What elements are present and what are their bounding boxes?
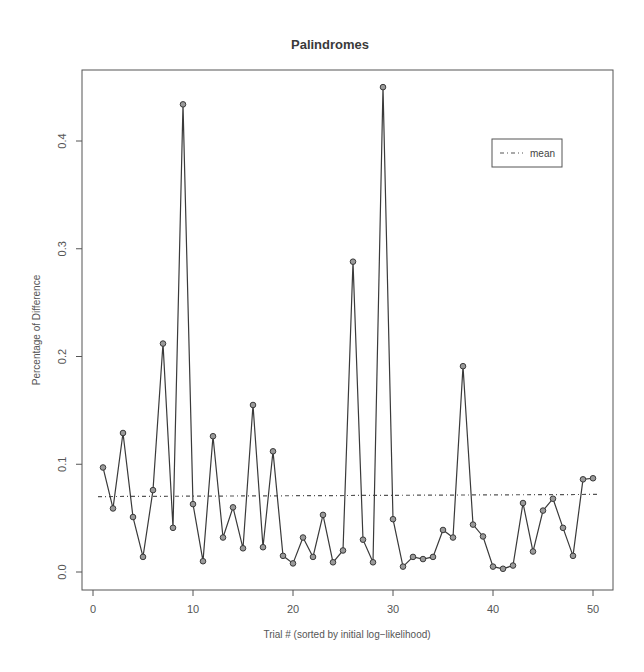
legend-mean-label: mean (530, 148, 555, 159)
data-point (260, 544, 266, 550)
data-point (460, 363, 466, 369)
data-point (320, 512, 326, 518)
data-point (450, 535, 456, 541)
data-point (210, 433, 216, 439)
data-point (500, 566, 506, 572)
data-point (280, 553, 286, 559)
data-point (510, 563, 516, 569)
x-tick-label: 10 (187, 603, 199, 615)
x-tick-label: 0 (90, 603, 96, 615)
data-point (430, 554, 436, 560)
chart: Palindromes 0.00.10.20.30.4 01020304050 … (0, 0, 644, 672)
legend: mean (492, 139, 562, 167)
data-point (350, 259, 356, 265)
data-point (230, 505, 236, 511)
y-axis: 0.00.10.20.30.4 (56, 133, 82, 579)
x-tick-label: 30 (387, 603, 399, 615)
data-point (160, 341, 166, 347)
data-point (570, 553, 576, 559)
y-tick-label: 0.4 (56, 133, 68, 148)
data-point (390, 516, 396, 522)
data-point (130, 514, 136, 520)
data-point (530, 549, 536, 555)
data-point (200, 558, 206, 564)
data-point (170, 525, 176, 531)
data-point (190, 501, 196, 507)
data-point (140, 554, 146, 560)
data-point (100, 465, 106, 471)
x-tick-label: 50 (587, 603, 599, 615)
data-point (290, 561, 296, 567)
data-point (440, 527, 446, 533)
data-point (360, 537, 366, 543)
data-point (550, 496, 556, 502)
data-point (400, 564, 406, 570)
data-point (270, 449, 276, 455)
y-tick-label: 0.1 (56, 457, 68, 472)
y-tick-label: 0.0 (56, 564, 68, 579)
data-point (490, 564, 496, 570)
data-point (590, 475, 596, 481)
data-point (120, 430, 126, 436)
mean-line (98, 494, 598, 496)
y-tick-label: 0.3 (56, 241, 68, 256)
data-point (380, 84, 386, 90)
data-point (220, 535, 226, 541)
x-axis-label: Trial # (sorted by initial log−likelihoo… (263, 629, 430, 640)
x-tick-label: 20 (287, 603, 299, 615)
data-point (420, 556, 426, 562)
data-point (150, 487, 156, 493)
y-axis-label: Percentage of Difference (31, 274, 42, 385)
data-point (470, 522, 476, 528)
data-point (480, 534, 486, 540)
data-point (560, 525, 566, 531)
data-point (240, 545, 246, 551)
data-point (330, 560, 336, 566)
data-point (540, 508, 546, 514)
data-point (340, 548, 346, 554)
x-tick-label: 40 (487, 603, 499, 615)
data-point (580, 477, 586, 483)
mean-dashed-line (98, 494, 598, 496)
data-point (370, 560, 376, 566)
chart-title: Palindromes (291, 37, 369, 52)
data-point (410, 554, 416, 560)
data-point (300, 535, 306, 541)
data-point (520, 500, 526, 506)
y-tick-label: 0.2 (56, 349, 68, 364)
data-point (310, 554, 316, 560)
data-point (110, 506, 116, 512)
data-point (250, 402, 256, 408)
x-axis: 01020304050 (90, 590, 599, 615)
data-point (180, 102, 186, 108)
